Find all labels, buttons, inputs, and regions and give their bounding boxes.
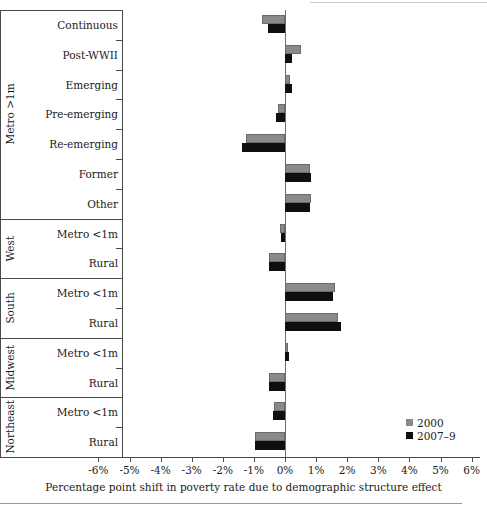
legend-swatch-icon-2000 [406,419,413,426]
group-bracket-line [0,219,1,279]
x-axis-tick [472,457,473,462]
group-separator [0,397,122,398]
category-label: Emerging [66,79,118,91]
bar-2000 [269,373,285,382]
legend-item-2007-9: 2007–9 [406,429,456,442]
bar-2000 [285,45,301,54]
group-bracket-line [0,278,1,338]
bar-2000 [278,104,285,113]
y-axis-tick [116,70,122,71]
x-axis-tick-label: 5% [424,464,458,476]
category-label: Continuous [57,19,118,31]
category-label: Other [87,198,118,210]
x-axis-tick [130,457,131,462]
bottom-rule [0,503,462,504]
group-separator [0,338,122,339]
group-label: Metro >1m [2,10,18,219]
x-axis-tick-label: 1% [299,464,333,476]
x-axis-tick-label: -1% [237,464,271,476]
group-label: West [2,219,18,279]
group-separator [0,457,122,458]
legend-item-2000: 2000 [406,416,456,429]
x-axis-tick-label: 2% [330,464,364,476]
x-axis-tick [347,457,348,462]
group-label: South [2,278,18,338]
bar-2000 [285,343,288,352]
bar-2007-9 [285,322,341,331]
y-axis-tick [116,129,122,130]
category-label: Re-emerging [49,138,118,150]
y-axis-tick [116,248,122,249]
bar-2000 [285,313,338,322]
category-label: Former [79,168,118,180]
y-axis-tick [116,40,122,41]
category-label: Rural [89,377,118,389]
bar-2000 [274,402,285,411]
category-label: Post-WWII [63,49,118,61]
x-axis-tick [441,457,442,462]
bar-2000 [262,15,285,24]
y-axis-tick [116,427,122,428]
x-axis-tick-label: 4% [392,464,426,476]
x-axis-tick-label: -5% [113,464,147,476]
bar-2007-9 [268,24,285,33]
group-separator [0,219,122,220]
bar-2000 [280,224,285,233]
bar-2007-9 [276,113,285,122]
x-axis-tick-label: -2% [206,464,240,476]
category-label: Rural [89,436,118,448]
group-bracket-line [0,397,1,457]
x-axis-tick-label: -6% [81,464,115,476]
x-axis-tick-label: 6% [455,464,487,476]
bar-2007-9 [285,352,289,361]
y-axis-tick [116,189,122,190]
bar-2007-9 [285,292,333,301]
bar-2000 [269,253,285,262]
x-axis-title: Percentage point shift in poverty rate d… [0,481,487,493]
category-label: Rural [89,317,118,329]
category-label: Rural [89,257,118,269]
bar-2007-9 [255,441,285,450]
bar-2007-9 [285,173,311,182]
category-label: Metro <1m [57,347,118,359]
plot-area [122,10,472,457]
bar-2000 [285,75,290,84]
x-axis-line [100,457,480,458]
category-label: Metro <1m [57,406,118,418]
legend-swatch-icon-2007-9 [406,432,413,439]
group-separator [0,10,122,11]
bar-2000 [246,134,285,143]
x-axis-tick [223,457,224,462]
bar-2007-9 [281,233,285,242]
bar-2000 [285,164,310,173]
category-label: Metro <1m [57,228,118,240]
bar-2000 [255,432,285,441]
bar-2007-9 [273,411,285,420]
bar-2000 [285,283,335,292]
x-axis-tick [161,457,162,462]
category-label: Pre-emerging [45,108,118,120]
bar-2007-9 [285,54,292,63]
top-rule [310,2,487,3]
group-separator [0,278,122,279]
bar-2007-9 [285,203,310,212]
x-axis-tick-label: 0% [268,464,302,476]
group-bracket-line [0,10,1,219]
legend-label-2000: 2000 [417,417,444,429]
legend-label-2007-9: 2007–9 [417,430,456,442]
y-axis-tick [116,308,122,309]
group-label: Northeast [2,397,18,457]
bar-2007-9 [269,262,285,271]
group-bracket-line [0,338,1,398]
x-axis-tick-label: -3% [175,464,209,476]
x-axis-tick [285,457,286,462]
chart-figure: ContinuousPost-WWIIEmergingPre-emergingR… [0,0,487,509]
bar-2007-9 [269,382,285,391]
bar-2000 [285,194,311,203]
x-axis-tick [254,457,255,462]
y-axis-tick [116,99,122,100]
x-axis-tick [316,457,317,462]
category-label-column: ContinuousPost-WWIIEmergingPre-emergingR… [24,10,122,457]
bar-2007-9 [285,84,292,93]
x-axis-tick [192,457,193,462]
